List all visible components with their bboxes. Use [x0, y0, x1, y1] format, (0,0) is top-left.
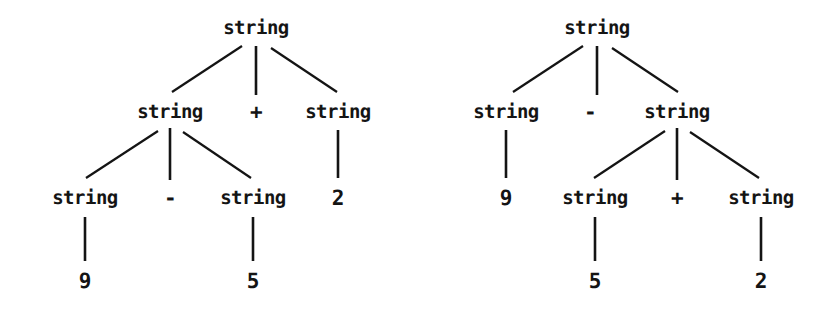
tree-node-operator: +: [671, 188, 683, 209]
tree-node-nonterminal: string: [564, 19, 630, 38]
tree-node-terminal: 9: [500, 188, 513, 209]
tree-node-terminal: 9: [79, 271, 92, 292]
tree-node-nonterminal: string: [220, 189, 286, 208]
tree-node-terminal: 2: [332, 188, 345, 209]
tree-node-nonterminal: string: [305, 103, 371, 122]
tree-node-nonterminal: string: [644, 103, 710, 122]
tree-node-nonterminal: string: [137, 103, 203, 122]
tree-edge: [690, 132, 759, 178]
tree-node-operator: -: [584, 102, 596, 123]
tree-edge: [612, 48, 678, 92]
tree-node-nonterminal: string: [52, 189, 118, 208]
tree-node-nonterminal: string: [223, 19, 289, 38]
tree-node-operator: -: [164, 188, 176, 209]
tree-edge: [172, 46, 242, 92]
tree-node-nonterminal: string: [473, 103, 539, 122]
tree-edge-layer: [0, 0, 835, 317]
tree-node-operator: +: [250, 102, 262, 123]
tree-node-terminal: 5: [589, 271, 602, 292]
tree-edge: [183, 132, 251, 178]
tree-edge: [271, 48, 337, 92]
tree-edge: [86, 131, 158, 178]
tree-node-nonterminal: string: [562, 189, 628, 208]
tree-edge: [594, 131, 665, 178]
tree-node-terminal: 5: [247, 271, 260, 292]
tree-node-nonterminal: string: [728, 189, 794, 208]
tree-node-terminal: 2: [755, 271, 768, 292]
parse-tree-figure: stringstring+stringstring-string295strin…: [0, 0, 835, 317]
tree-edge: [513, 46, 583, 92]
